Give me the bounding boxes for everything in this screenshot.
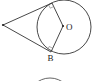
center-point	[62, 25, 64, 27]
label-center-o: O	[66, 22, 73, 32]
label-point-b: B	[48, 53, 54, 63]
partial-circle-bottom	[28, 78, 72, 81]
external-point	[2, 24, 4, 26]
radius-ob	[51, 26, 63, 52]
tangent-line-pb	[3, 25, 51, 52]
geometry-diagram: O B	[0, 0, 101, 81]
circle	[37, 0, 91, 54]
tangent-line-pa	[3, 3, 52, 25]
radius-oa	[52, 3, 63, 26]
